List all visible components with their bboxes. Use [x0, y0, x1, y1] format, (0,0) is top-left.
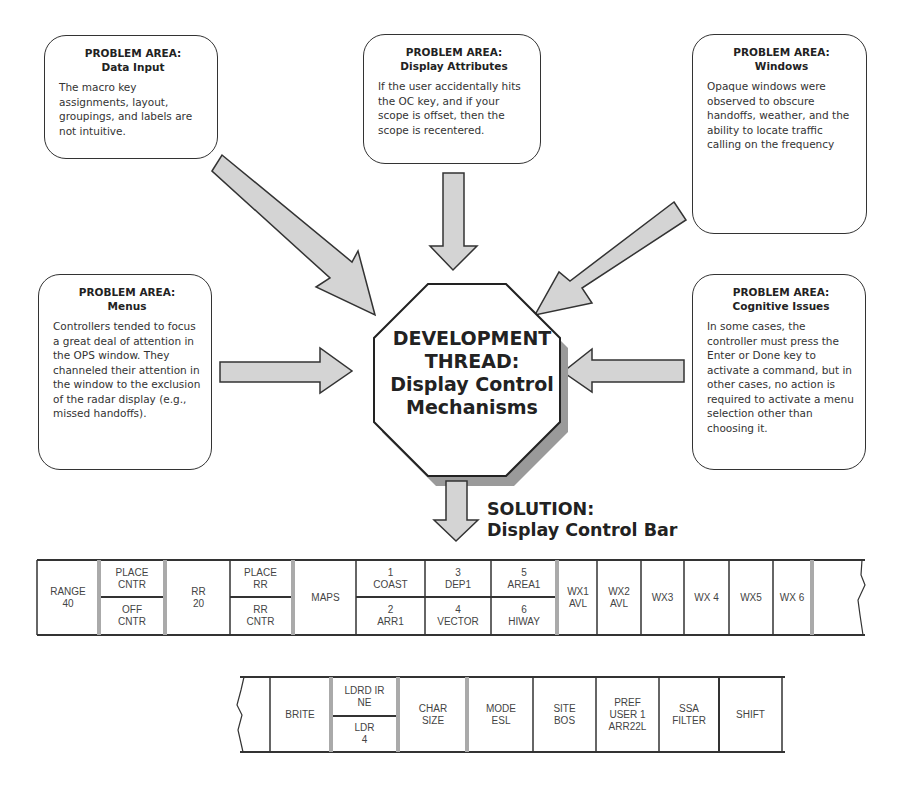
problem-area-name: Data Input	[59, 60, 207, 74]
key-map-2-arr1[interactable]: 2ARR1	[356, 597, 425, 635]
solution-heading: SOLUTION: Display Control Bar	[487, 499, 677, 541]
key-map-6-hiway[interactable]: 6HIWAY	[491, 597, 557, 635]
key-site[interactable]: SITEBOS	[533, 677, 596, 752]
key-wx2[interactable]: WX2AVL	[597, 560, 641, 635]
key-rr-cntr[interactable]: RRCNTR	[230, 597, 291, 635]
problem-area-description: If the user accidentally hits the OC key…	[378, 79, 530, 137]
key-range[interactable]: RANGE40	[37, 560, 99, 635]
key-rr[interactable]: RR20	[167, 560, 230, 635]
key-wx1[interactable]: WX1AVL	[559, 560, 597, 635]
problem-area-name: Windows	[707, 59, 856, 73]
problem-area-description: In some cases, the controller must press…	[707, 319, 855, 435]
problem-area-name: Menus	[53, 299, 201, 313]
problem-area-heading: PROBLEM AREA:	[53, 285, 201, 299]
key-map-3-dep1[interactable]: 3DEP1	[425, 560, 491, 597]
key-map-5-area1[interactable]: 5AREA1	[491, 560, 557, 597]
problem-area-display-attributes: PROBLEM AREA: Display Attributes If the …	[363, 34, 541, 164]
solution-line-1: SOLUTION:	[487, 499, 677, 520]
key-off-cntr[interactable]: OFFCNTR	[101, 597, 163, 635]
problem-area-description: Opaque windows were observed to obscure …	[707, 79, 856, 152]
problem-area-cognitive-issues: PROBLEM AREA: Cognitive Issues In some c…	[692, 274, 866, 470]
problem-area-windows: PROBLEM AREA: Windows Opaque windows wer…	[692, 34, 867, 234]
key-place-rr[interactable]: PLACERR	[230, 560, 291, 597]
key-ldr-direction[interactable]: LDRD IRNE	[333, 677, 396, 716]
key-char-size[interactable]: CHARSIZE	[400, 677, 466, 752]
development-thread-label: DEVELOPMENT THREAD: Display Control Mech…	[388, 327, 556, 419]
center-line-1: DEVELOPMENT	[388, 327, 556, 350]
arrow-solution-icon	[434, 481, 478, 541]
center-line-3: Display Control	[388, 373, 556, 396]
solution-line-2: Display Control Bar	[487, 520, 677, 541]
problem-area-menus: PROBLEM AREA: Menus Controllers tended t…	[38, 274, 212, 470]
key-place-cntr[interactable]: PLACECNTR	[101, 560, 163, 597]
key-maps[interactable]: MAPS	[295, 560, 356, 635]
key-ssa-filter[interactable]: SSAFILTER	[659, 677, 719, 752]
problem-area-heading: PROBLEM AREA:	[59, 46, 207, 60]
key-map-1-coast[interactable]: 1COAST	[356, 560, 425, 597]
key-wx4[interactable]: WX 4	[684, 560, 729, 635]
problem-area-heading: PROBLEM AREA:	[707, 45, 856, 59]
arrow-menus-icon	[220, 348, 352, 393]
problem-area-heading: PROBLEM AREA:	[707, 285, 855, 299]
key-wx6[interactable]: WX 6	[773, 560, 811, 635]
problem-area-name: Display Attributes	[378, 59, 530, 73]
center-line-2: THREAD:	[388, 350, 556, 373]
key-pref[interactable]: PREFUSER 1ARR22L	[596, 677, 659, 752]
arrow-windows-icon	[535, 202, 686, 315]
key-wx3[interactable]: WX3	[641, 560, 684, 635]
key-shift[interactable]: SHIFT	[719, 677, 782, 752]
arrow-data-input-icon	[212, 155, 375, 315]
arrow-cognitive-issues-icon	[563, 349, 684, 392]
key-ldr-length[interactable]: LDR4	[333, 716, 396, 752]
key-brite[interactable]: BRITE	[270, 677, 330, 752]
problem-area-description: Controllers tended to focus a great deal…	[53, 319, 201, 421]
problem-area-data-input: PROBLEM AREA: Data Input The macro key a…	[44, 35, 218, 159]
key-mode[interactable]: MODEESL	[469, 677, 533, 752]
key-map-4-vector[interactable]: 4VECTOR	[425, 597, 491, 635]
problem-area-description: The macro key assignments, layout, group…	[59, 80, 207, 138]
problem-area-name: Cognitive Issues	[707, 299, 855, 313]
arrow-display-attributes-icon	[430, 173, 477, 270]
center-line-4: Mechanisms	[388, 396, 556, 419]
key-wx5[interactable]: WX5	[729, 560, 773, 635]
problem-area-heading: PROBLEM AREA:	[378, 45, 530, 59]
